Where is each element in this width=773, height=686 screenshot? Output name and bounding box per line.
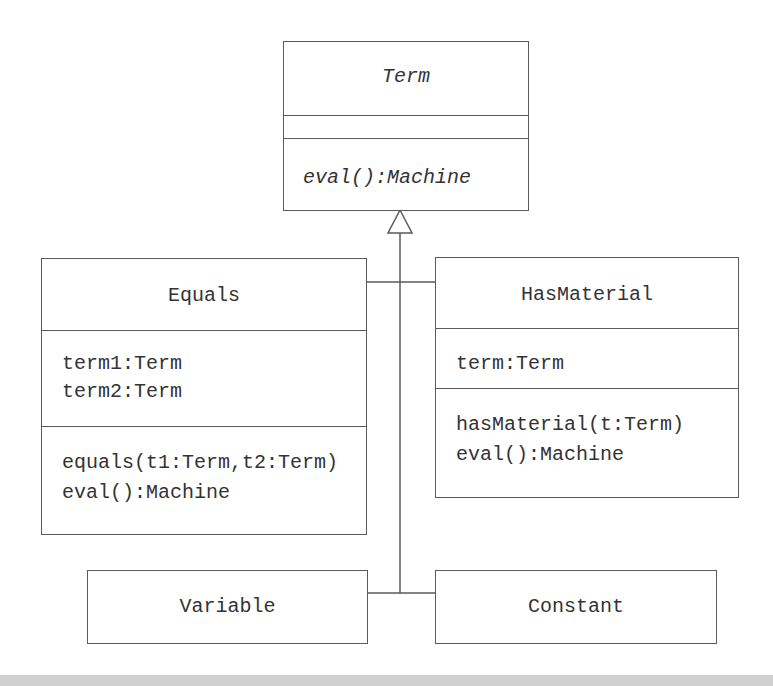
uml-class-diagram: Term eval():Machine Equals term1:Term te… <box>0 0 773 686</box>
class-name: Term <box>284 67 528 87</box>
attributes-divider <box>436 328 738 329</box>
operations-divider <box>436 388 738 389</box>
generalization-arrowhead-icon <box>388 210 412 233</box>
operation: hasMaterial(t:Term) <box>456 415 684 435</box>
attributes-divider <box>284 115 528 116</box>
class-name: Variable <box>88 597 367 617</box>
class-has-material[interactable]: HasMaterial term:Term hasMaterial(t:Term… <box>435 257 739 498</box>
attributes-divider <box>42 330 366 331</box>
class-name: HasMaterial <box>436 285 738 305</box>
attribute: term1:Term <box>62 354 182 374</box>
class-term[interactable]: Term eval():Machine <box>283 41 529 211</box>
operation: eval():Machine <box>62 483 230 503</box>
class-name: Constant <box>436 597 716 617</box>
class-constant[interactable]: Constant <box>435 570 717 644</box>
operation: eval():Machine <box>303 168 471 188</box>
operation: equals(t1:Term,t2:Term) <box>62 453 338 473</box>
page-bottom-bar <box>0 675 773 686</box>
class-name: Equals <box>42 286 366 306</box>
class-variable[interactable]: Variable <box>87 570 368 644</box>
attribute: term2:Term <box>62 382 182 402</box>
operations-divider <box>42 426 366 427</box>
operations-divider <box>284 138 528 139</box>
operation: eval():Machine <box>456 445 624 465</box>
attribute: term:Term <box>456 354 564 374</box>
class-equals[interactable]: Equals term1:Term term2:Term equals(t1:T… <box>41 258 367 535</box>
